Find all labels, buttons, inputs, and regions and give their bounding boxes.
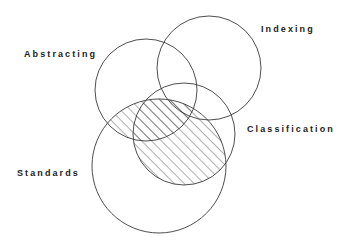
hatched-region: [95, 39, 235, 185]
venn-diagram: [0, 0, 352, 244]
label-abstracting: Abstracting: [24, 49, 97, 59]
hatch-classification-part: [133, 83, 235, 185]
label-classification: Classification: [247, 124, 335, 134]
label-indexing: Indexing: [261, 24, 315, 34]
label-standards: Standards: [17, 168, 80, 178]
